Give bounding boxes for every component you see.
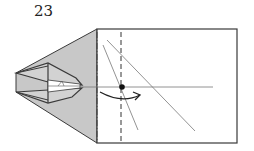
pivot-point-dot (119, 84, 125, 90)
rectangle-flap (97, 29, 237, 143)
folded-model-left-section (16, 29, 97, 143)
origami-diagram (0, 0, 254, 151)
